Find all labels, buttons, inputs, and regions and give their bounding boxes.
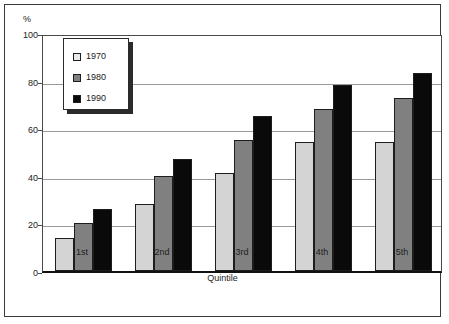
bar-1990-1st [93,209,112,271]
bar-group [203,36,283,271]
chart-figure: % 020406080100 1st2nd3rd4th5th Quintile … [4,4,441,317]
bar-1970-2nd [135,204,154,271]
bar-group [363,36,443,271]
bar-1990-5th [413,73,432,271]
x-axis-tick-label: 2nd [154,247,169,257]
bar-1970-4th [295,142,314,271]
bar-1990-3rd [253,116,272,271]
bar-1980-5th [394,98,413,271]
y-axis-unit-label: % [23,14,31,24]
y-axis-tick-label: 60 [8,125,38,135]
legend-item: 1990 [73,88,128,109]
bar-group [283,36,363,271]
y-axis-tick-labels: 020406080100 [5,35,38,273]
bar-1990-4th [333,85,352,271]
legend-swatch-1990 [73,95,81,103]
y-axis-tick-label: 80 [8,78,38,88]
x-axis-tick-label: 4th [316,247,329,257]
y-axis-tick-label: 100 [8,30,38,40]
y-axis-tick-label: 40 [8,173,38,183]
bar-group [123,36,203,271]
legend-label-1980: 1980 [86,73,106,82]
legend-item: 1980 [73,67,128,88]
bar-1970-1st [55,238,74,271]
bar-1970-5th [375,142,394,271]
bar-1990-2nd [173,159,192,271]
legend-swatch-1970 [73,53,81,61]
x-axis-tick-label: 3rd [235,247,248,257]
x-axis-title: Quintile [5,273,440,283]
legend-item: 1970 [73,46,128,67]
bar-1970-3rd [215,173,234,271]
y-axis-tick-label: 20 [8,220,38,230]
x-axis-tick-label: 1st [76,247,88,257]
chart-legend: 1970 1980 1990 [63,38,129,110]
legend-label-1990: 1990 [86,94,106,103]
legend-swatch-1980 [73,74,81,82]
legend-label-1970: 1970 [86,52,106,61]
x-axis-tick-label: 5th [396,247,409,257]
